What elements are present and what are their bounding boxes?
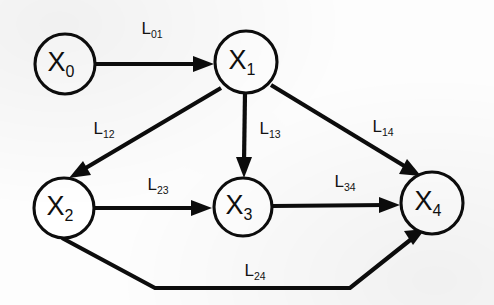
edge-x2-to-x3 xyxy=(95,200,212,216)
edge-x3-to-x4 xyxy=(273,197,400,213)
edge-base-12: L xyxy=(93,119,102,138)
node-base-x0: X xyxy=(48,47,66,77)
node-base-x1: X xyxy=(229,45,247,75)
edge-x0-to-x1 xyxy=(96,56,214,72)
edge-base-14: L xyxy=(372,117,381,136)
edge-x1-to-x4 xyxy=(271,85,421,176)
arrowhead-13 xyxy=(236,157,252,178)
edge-line-24 xyxy=(62,237,414,288)
edge-label-13: L13 xyxy=(259,119,280,139)
arrowhead-12 xyxy=(69,161,91,178)
node-x4[interactable]: X4 xyxy=(401,172,463,234)
edge-label-14: L14 xyxy=(372,117,393,137)
edge-base-13: L xyxy=(259,119,268,138)
node-x0[interactable]: X0 xyxy=(35,34,95,94)
edge-sub-12: 12 xyxy=(103,128,115,140)
arrowhead-34 xyxy=(379,197,400,213)
edge-base-24: L xyxy=(244,261,253,280)
diagram-figure: X0 X1 X2 X3 X4 xyxy=(0,0,494,305)
arrowhead-14 xyxy=(399,159,421,176)
node-sub-x3: 3 xyxy=(244,206,253,223)
node-sub-x2: 2 xyxy=(65,207,74,224)
edge-base-01: L xyxy=(141,19,150,38)
edge-base-23: L xyxy=(147,175,156,194)
edge-label-12: L12 xyxy=(93,119,114,139)
node-base-x3: X xyxy=(226,190,244,220)
edge-sub-24: 24 xyxy=(254,270,266,282)
edge-label-01: L01 xyxy=(141,19,162,39)
edge-sub-14: 14 xyxy=(382,126,394,138)
edge-sub-01: 01 xyxy=(151,28,163,40)
edge-sub-23: 23 xyxy=(157,184,169,196)
edge-x1-to-x3 xyxy=(236,93,252,178)
edge-label-34: L34 xyxy=(334,172,355,192)
edge-sub-34: 34 xyxy=(344,181,356,193)
node-base-x4: X xyxy=(415,186,433,216)
edge-label-23: L23 xyxy=(147,175,168,195)
arrowhead-01 xyxy=(193,56,214,72)
node-sub-x0: 0 xyxy=(66,63,75,80)
node-sub-x1: 1 xyxy=(247,61,256,78)
node-x3[interactable]: X3 xyxy=(214,178,272,236)
node-base-x2: X xyxy=(47,191,65,221)
node-sub-x4: 4 xyxy=(433,202,442,219)
edge-line-13 xyxy=(244,93,245,163)
edge-base-34: L xyxy=(334,172,343,191)
edge-x1-to-x2 xyxy=(69,88,221,178)
edge-sub-13: 13 xyxy=(269,128,281,140)
node-x1[interactable]: X1 xyxy=(215,31,277,93)
edge-line-34 xyxy=(273,205,386,206)
node-x2[interactable]: X2 xyxy=(34,178,94,238)
edge-label-24: L24 xyxy=(244,261,265,281)
arrowhead-23 xyxy=(191,200,212,216)
directed-graph-canvas: X0 X1 X2 X3 X4 xyxy=(0,0,494,305)
